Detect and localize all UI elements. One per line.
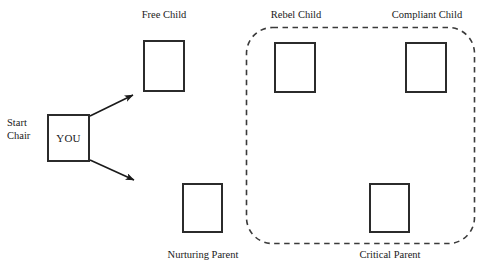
chair-box-nurturing-parent[interactable] — [182, 183, 223, 233]
label-nurturing-parent: Nurturing Parent — [158, 249, 248, 261]
diagram-canvas: Start Chair YOU Free Child Rebel Child C… — [0, 0, 487, 274]
chair-box-rebel-child[interactable] — [274, 42, 316, 93]
start-chair-label-line2: Chair — [7, 129, 30, 142]
start-chair-label-line1: Start — [7, 116, 30, 129]
arrow-to-free-child — [90, 95, 133, 116]
chair-box-start-you[interactable]: YOU — [47, 114, 90, 162]
label-free-child: Free Child — [133, 9, 195, 21]
start-chair-label: Start Chair — [7, 116, 30, 142]
label-rebel-child: Rebel Child — [263, 9, 329, 21]
arrow-to-nurturing-parent — [90, 160, 134, 180]
label-critical-parent: Critical Parent — [350, 249, 430, 261]
chair-box-compliant-child[interactable] — [405, 42, 447, 93]
label-compliant-child: Compliant Child — [384, 9, 470, 21]
chair-box-critical-parent[interactable] — [369, 183, 410, 233]
you-box-label: YOU — [56, 133, 80, 144]
chair-box-free-child[interactable] — [143, 40, 185, 92]
